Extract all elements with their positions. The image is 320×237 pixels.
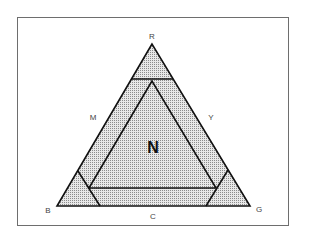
vertex-label-bottom-left: B (45, 206, 50, 215)
edge-label-bottom: C (150, 212, 156, 221)
center-label: N (147, 139, 159, 157)
edge-label-right: Y (208, 113, 213, 122)
vertex-label-top: R (149, 32, 155, 41)
edge-label-left: M (90, 113, 97, 122)
vertex-label-bottom-right: G (256, 205, 262, 214)
